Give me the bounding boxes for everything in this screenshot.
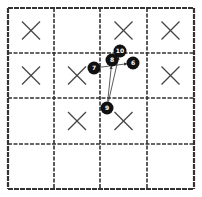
x-mark-icon bbox=[115, 112, 133, 130]
x-mark-icon bbox=[22, 67, 40, 85]
stone-label: 8 bbox=[110, 56, 114, 63]
x-mark-icon bbox=[162, 22, 180, 40]
stone-9: 9 bbox=[101, 102, 114, 115]
x-mark-icon bbox=[162, 67, 180, 85]
x-mark-icon bbox=[68, 112, 86, 130]
x-mark-icon bbox=[68, 67, 86, 85]
stone-7: 7 bbox=[88, 62, 101, 75]
x-mark-icon bbox=[115, 22, 133, 40]
stone-label: 9 bbox=[105, 104, 109, 111]
stone-label: 6 bbox=[131, 59, 135, 66]
stone-6: 6 bbox=[127, 57, 140, 70]
stone-8: 8 bbox=[106, 54, 119, 67]
stone-label: 10 bbox=[116, 47, 124, 54]
game-board: 108679 bbox=[0, 0, 202, 197]
stone-label: 7 bbox=[92, 64, 96, 71]
x-mark-icon bbox=[22, 22, 40, 40]
